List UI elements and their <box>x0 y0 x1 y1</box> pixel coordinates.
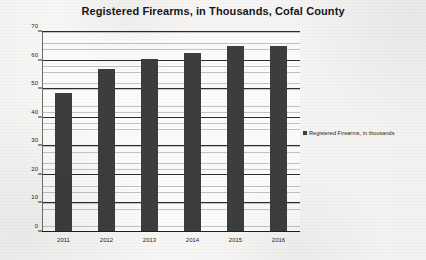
bar-2016[interactable] <box>270 46 287 232</box>
bar-slot: 2011 <box>42 32 85 232</box>
x-axis-tick-label-2014: 2014 <box>186 237 199 243</box>
bar-2014[interactable] <box>184 53 201 232</box>
y-axis-tick-label: 40 <box>31 109 38 115</box>
y-axis-tick-label: 60 <box>31 52 38 58</box>
bar-slot: 2016 <box>257 32 300 232</box>
bar-slot: 2015 <box>214 32 257 232</box>
x-axis-tick-label-2012: 2012 <box>100 237 113 243</box>
x-axis-tick-label-2016: 2016 <box>272 237 285 243</box>
bar-2013[interactable] <box>141 59 158 232</box>
bar-series: 201120122013201420152016 <box>42 32 300 232</box>
y-axis-line <box>42 32 43 232</box>
bar-2015[interactable] <box>227 46 244 232</box>
bar-slot: 2014 <box>171 32 214 232</box>
x-axis-tick-label-2015: 2015 <box>229 237 242 243</box>
bar-2011[interactable] <box>55 93 72 232</box>
bar-2012[interactable] <box>98 69 115 232</box>
bar-slot: 2012 <box>85 32 128 232</box>
y-axis-tick-label: 10 <box>31 194 38 200</box>
y-axis-tick-label: 0 <box>35 223 38 229</box>
bar-slot: 2013 <box>128 32 171 232</box>
x-axis-tick-label-2013: 2013 <box>143 237 156 243</box>
y-axis-tick-label: 70 <box>31 23 38 29</box>
y-axis-tick-label: 20 <box>31 166 38 172</box>
chart-legend: Registered Firearms, in thousands <box>303 130 395 136</box>
y-axis-tick-label: 30 <box>31 137 38 143</box>
legend-label-registered-firearms: Registered Firearms, in thousands <box>309 130 395 136</box>
legend-swatch-registered-firearms <box>303 131 307 135</box>
plot-area: 010203040506070 201120122013201420152016 <box>42 32 300 232</box>
y-axis-tick-label: 50 <box>31 80 38 86</box>
x-axis-line <box>42 231 300 232</box>
chart-title: Registered Firearms, in Thousands, Cofal… <box>0 5 426 17</box>
x-axis-tick-label-2011: 2011 <box>57 237 70 243</box>
chart-figure: Registered Firearms, in Thousands, Cofal… <box>0 0 426 260</box>
